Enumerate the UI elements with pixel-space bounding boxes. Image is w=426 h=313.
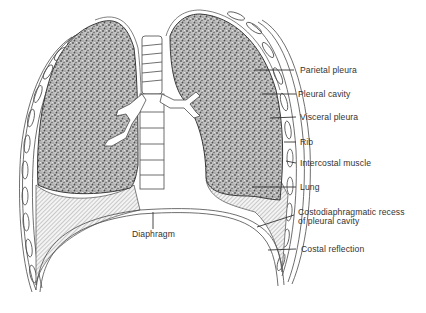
anatomy-diagram: Parietal pleura Pleural cavity Visceral …: [0, 0, 426, 313]
label-costodiaphragmatic-recess-line2: of pleural cavity: [298, 216, 359, 226]
left-costodiaphragmatic-recess: [36, 185, 140, 285]
label-visceral-pleura: Visceral pleura: [300, 112, 358, 122]
label-intercostal-muscle: Intercostal muscle: [300, 158, 371, 168]
lungs-pleura-illustration: [0, 0, 426, 313]
label-lung: Lung: [300, 182, 320, 192]
label-diaphragm: Diaphragm: [132, 229, 175, 239]
label-pleural-cavity: Pleural cavity: [298, 89, 351, 99]
label-costal-reflection: Costal reflection: [301, 244, 364, 254]
label-parietal-pleura: Parietal pleura: [300, 65, 357, 75]
label-rib: Rib: [300, 137, 313, 147]
trachea-and-spine: [140, 36, 164, 189]
